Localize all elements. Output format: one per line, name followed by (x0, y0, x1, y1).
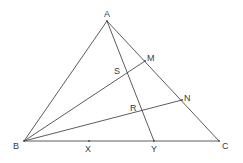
point-x (88, 140, 90, 142)
label-b: B (13, 141, 19, 151)
point-m (144, 60, 146, 62)
label-x: X (85, 144, 91, 154)
label-y: Y (151, 144, 157, 154)
segment-bm (24, 61, 145, 141)
point-n (181, 99, 183, 101)
label-r: R (130, 103, 137, 113)
label-s: S (114, 66, 120, 76)
point-a (106, 20, 108, 22)
point-c (218, 140, 220, 142)
label-m: M (147, 53, 155, 63)
label-a: A (104, 9, 110, 19)
segment-ac (107, 21, 219, 141)
label-c: C (222, 141, 229, 151)
point-y (153, 140, 155, 142)
point-b (23, 140, 25, 142)
triangle-diagram: A B C M N S R X Y (0, 0, 243, 163)
label-n: N (184, 93, 191, 103)
